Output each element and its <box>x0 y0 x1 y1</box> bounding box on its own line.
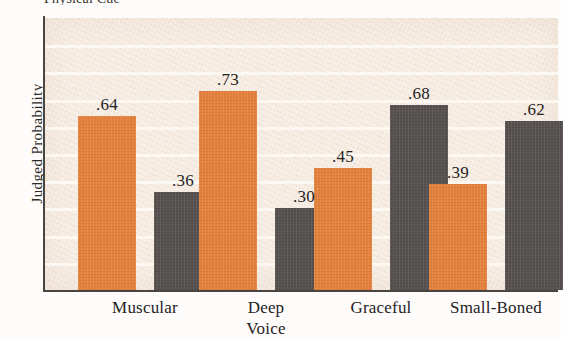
top-caption-sliver: Physical Cue <box>44 0 344 5</box>
gridline <box>45 72 558 75</box>
bar-value-label: .39 <box>423 163 493 183</box>
bar-texture <box>429 184 487 290</box>
bar-value-label: .64 <box>72 95 142 115</box>
bar-value-label: .30 <box>269 187 339 207</box>
x-axis-line <box>43 290 558 292</box>
gridline <box>45 45 558 48</box>
bar-value-label: .45 <box>308 147 378 167</box>
bar-value-label: .36 <box>148 171 218 191</box>
x-label-small-boned: Small-Boned <box>416 297 567 318</box>
bar-value-label: .73 <box>193 70 263 90</box>
x-label-line: Voice <box>186 318 346 339</box>
bar-texture <box>78 116 136 290</box>
plot-background <box>45 18 558 290</box>
y-axis-line <box>43 16 45 292</box>
bar-value-label: .62 <box>499 100 567 120</box>
bar-texture <box>505 121 563 290</box>
bar-small-boned-series-dark <box>505 121 563 290</box>
x-label-line: Small-Boned <box>416 297 567 318</box>
bar-value-label: .68 <box>384 84 454 104</box>
bar-texture <box>314 168 372 290</box>
plot-frame <box>45 18 558 290</box>
bar-small-boned-series-orange <box>429 184 487 290</box>
bar-muscular-series-orange <box>78 116 136 290</box>
bar-graceful-series-orange <box>314 168 372 290</box>
